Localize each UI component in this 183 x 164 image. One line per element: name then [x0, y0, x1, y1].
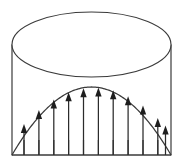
cylinder-velocity-profile-diagram: [0, 0, 183, 164]
cylinder-top-ellipse: [12, 12, 171, 77]
figure-container: [0, 0, 183, 164]
